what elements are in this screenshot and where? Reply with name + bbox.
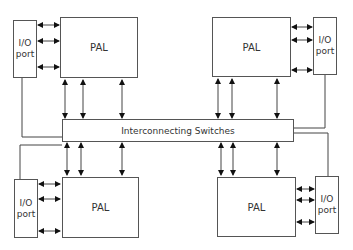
io-label-line2: port [316,46,334,56]
pal-label: PAL [243,42,261,53]
io-switch-line-bl [20,145,62,179]
pal-top-right: PAL [212,17,291,77]
io-switch-line-tr [294,75,325,128]
pal-top-left: PAL [60,17,138,78]
io-label-line2: port [17,209,35,219]
pal-bottom-left: PAL [62,177,139,238]
pal-label: PAL [90,42,108,53]
io-switch-line-br [294,133,328,176]
io-label-line1: I/O [321,194,334,204]
io-port-bottom-left: I/Oport [14,179,38,238]
io-label-line2: port [16,49,34,59]
io-port-bottom-right: I/Oport [315,176,339,234]
pal-label: PAL [92,202,110,213]
io-port-top-left: I/Oport [13,20,37,78]
pal-bottom-right: PAL [217,177,296,237]
io-label-line1: I/O [19,38,32,48]
switches-label: Interconnecting Switches [121,126,235,136]
io-switch-line-tl [22,78,62,137]
io-port-top-right: I/Oport [313,17,337,75]
io-label-line2: port [318,205,336,215]
io-label-line1: I/O [319,35,332,45]
io-label-line1: I/O [20,198,33,208]
interconnecting-switches: Interconnecting Switches [62,119,294,142]
pal-label: PAL [248,202,266,213]
